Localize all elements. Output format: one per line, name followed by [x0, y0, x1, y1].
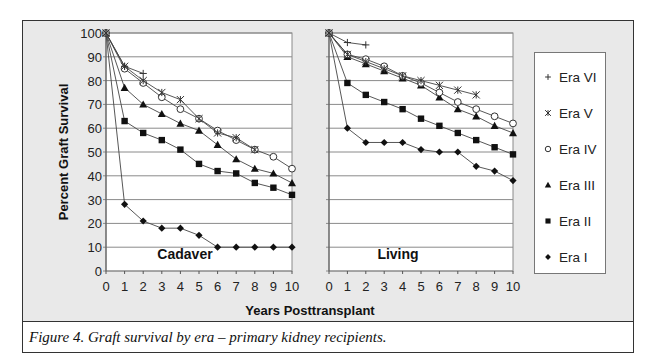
x-tick-label: 4	[399, 279, 406, 294]
point-era-ii	[214, 168, 220, 174]
panel-label-cadaver: Cadaver	[157, 246, 213, 262]
legend-marker-era-iv	[545, 146, 550, 151]
point-era-ii	[252, 180, 258, 186]
x-axis-title: Years Posttransplant	[245, 303, 375, 318]
legend-marker-era-ii	[545, 218, 550, 223]
point-era-ii	[491, 144, 497, 150]
x-tick-label: 5	[417, 279, 424, 294]
y-tick-label: 30	[88, 193, 102, 208]
x-tick-label: 1	[121, 279, 128, 294]
x-tick-label: 3	[158, 279, 165, 294]
caption-box: Figure 4. Graft survival by era – primar…	[22, 321, 634, 353]
x-tick-label: 7	[233, 279, 240, 294]
panel-living: 012345678910Living	[325, 29, 520, 294]
legend-item-era-iv: Era IV	[541, 139, 597, 159]
point-era-ii	[177, 146, 183, 152]
point-era-ii	[418, 115, 424, 121]
point-era-ii	[140, 130, 146, 136]
point-era-iv	[289, 165, 296, 172]
point-era-iv	[270, 153, 277, 160]
legend-item-era-vi: Era VI	[541, 67, 597, 87]
y-tick-label: 0	[95, 264, 102, 279]
x-tick-label: 0	[325, 279, 332, 294]
x-tick-label: 5	[195, 279, 202, 294]
panel-cadaver: 0102030405060708090100012345678910Cadave…	[80, 26, 299, 294]
legend-marker-era-vi	[545, 74, 551, 80]
y-tick-label: 90	[88, 50, 102, 65]
y-tick-label: 60	[88, 121, 102, 136]
legend-item-era-v: Era V	[541, 103, 593, 123]
x-tick-label: 9	[491, 279, 498, 294]
x-tick-label: 0	[102, 279, 109, 294]
legend-marker-era-iii	[545, 182, 551, 188]
legend-marker-era-v	[545, 110, 551, 116]
legend-label: Era I	[559, 250, 588, 265]
point-era-ii	[344, 80, 350, 86]
point-era-ii	[363, 92, 369, 98]
point-era-iv	[436, 89, 443, 96]
y-axis-title: Percent Graft Survival	[56, 84, 71, 221]
x-tick-label: 7	[454, 279, 461, 294]
x-tick-label: 2	[362, 279, 369, 294]
point-era-ii	[196, 161, 202, 167]
point-era-ii	[121, 118, 127, 124]
y-tick-label: 50	[88, 145, 102, 160]
legend-marker-triangle-icon	[541, 178, 555, 192]
point-era-ii	[233, 170, 239, 176]
x-tick-label: 4	[177, 279, 184, 294]
legend-item-era-i: Era I	[541, 247, 588, 267]
legend-label: Era VI	[559, 70, 597, 85]
y-tick-label: 80	[88, 74, 102, 89]
x-tick-label: 2	[140, 279, 147, 294]
y-tick-label: 70	[88, 97, 102, 112]
point-era-iv	[177, 106, 184, 113]
figure-caption: Figure 4. Graft survival by era – primar…	[29, 329, 387, 346]
point-era-iv	[454, 99, 461, 106]
y-tick-label: 100	[80, 26, 102, 41]
point-era-ii	[455, 130, 461, 136]
y-tick-label: 20	[88, 216, 102, 231]
panel-label-living: Living	[377, 246, 418, 262]
point-era-ii	[399, 106, 405, 112]
x-tick-label: 8	[251, 279, 258, 294]
legend-marker-asterisk-icon	[541, 106, 555, 120]
point-era-ii	[473, 137, 479, 143]
x-tick-label: 10	[285, 279, 299, 294]
point-era-ii	[159, 137, 165, 143]
point-era-ii	[289, 192, 295, 198]
x-tick-label: 6	[436, 279, 443, 294]
legend-label: Era II	[559, 214, 591, 229]
legend-marker-era-i	[545, 254, 551, 260]
point-era-ii	[510, 151, 516, 157]
y-tick-label: 10	[88, 240, 102, 255]
legend-item-era-ii: Era II	[541, 211, 591, 231]
legend: Era VIEra VEra IVEra IIIEra IIEra I	[534, 52, 606, 274]
legend-item-era-iii: Era III	[541, 175, 595, 195]
legend-label: Era V	[559, 106, 593, 121]
x-tick-label: 8	[473, 279, 480, 294]
point-era-ii	[381, 99, 387, 105]
legend-label: Era IV	[559, 142, 597, 157]
x-tick-label: 9	[270, 279, 277, 294]
point-era-ii	[270, 185, 276, 191]
legend-marker-square-icon	[541, 214, 555, 228]
x-tick-label: 1	[344, 279, 351, 294]
y-tick-label: 40	[88, 169, 102, 184]
point-era-iv	[491, 113, 498, 120]
point-era-iv	[473, 106, 480, 113]
legend-label: Era III	[559, 178, 595, 193]
legend-marker-plus-icon	[541, 70, 555, 84]
point-era-ii	[436, 123, 442, 129]
x-tick-label: 3	[381, 279, 388, 294]
legend-marker-open-circle-icon	[541, 142, 555, 156]
x-tick-label: 10	[506, 279, 520, 294]
legend-marker-diamond-icon	[541, 250, 555, 264]
x-tick-label: 6	[214, 279, 221, 294]
point-era-iv	[510, 120, 517, 127]
